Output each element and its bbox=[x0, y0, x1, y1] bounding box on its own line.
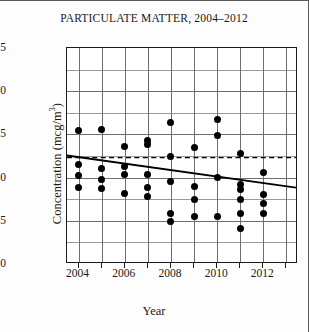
x-axis-tick-mark bbox=[170, 263, 171, 268]
x-axis-tick-label: 2004 bbox=[66, 267, 89, 279]
x-axis-tick-label: 2008 bbox=[158, 267, 181, 279]
x-axis-tick-label: 2010 bbox=[205, 267, 228, 279]
x-axis-tick-mark bbox=[147, 263, 148, 268]
chart-title: PARTICULATE MATTER, 2004–2012 bbox=[0, 12, 308, 24]
y-axis-tick-label: 5 bbox=[0, 214, 6, 226]
x-axis-tick-mark bbox=[78, 263, 79, 268]
x-axis-tick-mark bbox=[101, 263, 102, 268]
x-axis-tick-mark bbox=[216, 263, 217, 268]
plot-area bbox=[66, 47, 297, 263]
trend-line bbox=[67, 155, 296, 187]
x-axis-tick-label: 2012 bbox=[251, 267, 274, 279]
y-axis-title: Concentration (mcg/m3) bbox=[47, 64, 64, 264]
x-axis-tick-mark bbox=[239, 263, 240, 268]
x-axis-tick-mark bbox=[124, 263, 125, 268]
x-axis-title: Year bbox=[0, 304, 308, 319]
x-axis-tick-label: 2006 bbox=[112, 267, 135, 279]
y-axis-tick-label: 15 bbox=[0, 127, 6, 139]
trend-lines-overlay bbox=[67, 48, 296, 262]
y-axis-tick-label: 25 bbox=[0, 41, 6, 53]
x-axis-tick-mark bbox=[262, 263, 263, 268]
y-axis-tick-label: 0 bbox=[0, 257, 6, 269]
y-axis-tick-label: 20 bbox=[0, 84, 6, 96]
x-axis-tick-mark bbox=[285, 263, 286, 268]
y-axis-tick-label: 10 bbox=[0, 171, 6, 183]
chart-page: PARTICULATE MATTER, 2004–2012 0510152025… bbox=[0, 0, 309, 332]
x-axis-tick-mark bbox=[193, 263, 194, 268]
